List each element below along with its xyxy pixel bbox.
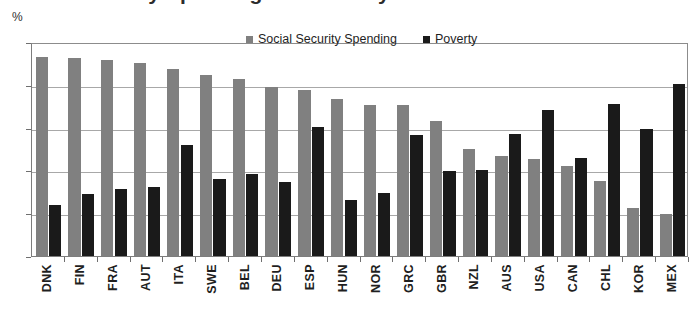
x-axis-label-kor: KOR — [632, 264, 646, 293]
bar-fin-spending — [68, 58, 80, 256]
bar-grc-poverty — [410, 135, 422, 256]
bar-chart: Social Security SpendingPoverty 05101520… — [0, 0, 700, 310]
x-axis-tick-mark — [622, 257, 623, 262]
legend-label: Poverty — [435, 32, 477, 46]
x-axis-label-can: CAN — [566, 264, 580, 292]
legend-item-social-security-spending[interactable]: Social Security Spending — [246, 32, 397, 46]
x-axis-label-nzl: NZL — [467, 264, 481, 290]
bar-hun-spending — [331, 99, 343, 256]
bar-nor-poverty — [378, 193, 390, 256]
x-axis-label-ita: ITA — [172, 264, 186, 284]
x-axis-label-aus: AUS — [500, 264, 514, 292]
x-axis-tick-mark — [327, 257, 328, 262]
x-axis-tick-mark — [557, 257, 558, 262]
gridline — [32, 215, 687, 216]
bar-kor-poverty — [640, 129, 652, 256]
bar-aus-spending — [495, 156, 507, 256]
x-axis-label-chl: CHL — [599, 264, 613, 291]
x-axis-label-fra: FRA — [106, 264, 120, 291]
bar-ita-spending — [167, 69, 179, 256]
y-axis-tick-mark — [26, 257, 31, 258]
x-axis-tick-mark — [162, 257, 163, 262]
bar-usa-spending — [528, 159, 540, 256]
x-axis-label-mex: MEX — [665, 264, 679, 292]
bar-swe-poverty — [213, 179, 225, 256]
x-axis-tick-mark — [589, 257, 590, 262]
bar-grc-spending — [397, 105, 409, 257]
bar-nzl-spending — [463, 149, 475, 256]
bar-bel-poverty — [246, 174, 258, 256]
bar-aus-poverty — [509, 134, 521, 256]
plot-area — [31, 43, 688, 257]
bar-esp-spending — [298, 90, 310, 256]
bar-fra-spending — [101, 60, 113, 256]
bar-kor-spending — [627, 208, 639, 256]
bar-mex-poverty — [673, 84, 685, 256]
y-axis-tick-mark — [26, 171, 31, 172]
x-axis-label-nor: NOR — [369, 264, 383, 293]
x-axis-label-gbr: GBR — [435, 264, 449, 293]
legend-square-swatch-icon — [246, 36, 253, 43]
bar-usa-poverty — [542, 110, 554, 256]
x-axis-tick-mark — [392, 257, 393, 262]
bar-deu-spending — [265, 87, 277, 256]
bar-bel-spending — [233, 79, 245, 256]
bar-fra-poverty — [115, 189, 127, 256]
x-axis-tick-mark — [458, 257, 459, 262]
legend-label: Social Security Spending — [258, 32, 397, 46]
bar-can-spending — [561, 166, 573, 256]
x-axis-tick-mark — [360, 257, 361, 262]
legend-item-poverty[interactable]: Poverty — [423, 32, 477, 46]
x-axis-tick-mark — [425, 257, 426, 262]
legend-square-swatch-icon — [423, 36, 430, 43]
x-axis-tick-mark — [294, 257, 295, 262]
x-axis-tick-mark — [688, 257, 689, 262]
x-axis-tick-mark — [64, 257, 65, 262]
gridline — [32, 130, 687, 131]
bar-nzl-poverty — [476, 170, 488, 256]
bar-gbr-poverty — [443, 171, 455, 256]
x-axis-label-fin: FIN — [73, 264, 87, 285]
bar-aut-poverty — [148, 187, 160, 256]
bar-mex-spending — [660, 214, 672, 256]
x-axis-label-aut: AUT — [139, 264, 153, 291]
bar-nor-spending — [364, 105, 376, 257]
gridline — [32, 172, 687, 173]
x-axis-tick-mark — [130, 257, 131, 262]
x-axis-label-esp: ESP — [303, 264, 317, 290]
x-axis-label-dnk: DNK — [40, 264, 54, 292]
x-axis-tick-mark — [261, 257, 262, 262]
bar-fin-poverty — [82, 194, 94, 256]
x-axis-tick-mark — [195, 257, 196, 262]
x-axis-label-usa: USA — [533, 264, 547, 292]
bar-gbr-spending — [430, 121, 442, 256]
x-axis-tick-mark — [491, 257, 492, 262]
y-axis-tick-mark — [26, 129, 31, 130]
chart-legend: Social Security SpendingPoverty — [246, 32, 477, 46]
y-axis-tick-mark — [26, 214, 31, 215]
bar-ita-poverty — [181, 145, 193, 256]
bar-esp-poverty — [312, 127, 324, 256]
x-axis-label-bel: BEL — [238, 264, 252, 290]
x-axis-tick-mark — [655, 257, 656, 262]
bar-can-poverty — [575, 158, 587, 256]
y-axis-tick-mark — [26, 43, 31, 44]
x-axis-label-grc: GRC — [402, 264, 416, 293]
bar-aut-spending — [134, 63, 146, 256]
bar-hun-poverty — [345, 200, 357, 256]
bar-dnk-poverty — [49, 205, 61, 256]
x-axis-tick-mark — [97, 257, 98, 262]
bar-chl-poverty — [608, 104, 620, 256]
x-axis-tick-mark — [524, 257, 525, 262]
x-axis-label-swe: SWE — [205, 264, 219, 294]
gridline — [32, 87, 687, 88]
bar-dnk-spending — [36, 57, 48, 256]
x-axis-label-deu: DEU — [270, 264, 284, 292]
y-axis-tick-mark — [26, 86, 31, 87]
x-axis-label-hun: HUN — [336, 264, 350, 292]
bar-chl-spending — [594, 181, 606, 256]
bar-swe-spending — [200, 75, 212, 256]
x-axis-tick-mark — [228, 257, 229, 262]
bar-deu-poverty — [279, 182, 291, 256]
